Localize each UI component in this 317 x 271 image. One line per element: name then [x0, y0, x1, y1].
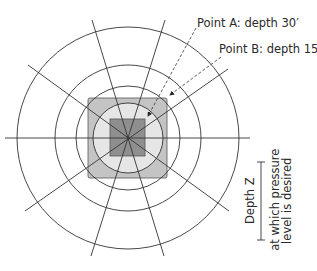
depth-bracket	[257, 162, 265, 240]
label-point-a: Point A: depth 30′	[197, 18, 299, 30]
label-point-b: Point B: depth 15′	[219, 44, 317, 56]
leader-point-b	[170, 57, 221, 95]
label-depth-desc-2: level is desired	[282, 151, 294, 251]
label-depth-z: Depth Z	[245, 175, 257, 227]
radial-lines	[5, 20, 250, 256]
leader-point-a	[148, 28, 196, 116]
